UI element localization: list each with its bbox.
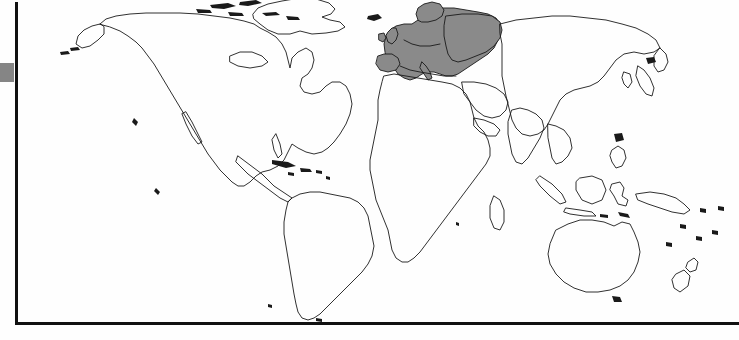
island-pacific-3: [696, 236, 702, 241]
island-philippines-north: [614, 133, 624, 142]
landmass-new-zealand-south: [672, 270, 690, 292]
landmass-florida: [272, 134, 282, 158]
island-aleutian-1: [70, 47, 80, 51]
landmass-java: [564, 208, 596, 216]
landmass-greenland: [253, 0, 345, 34]
landmass-arabian-peninsula: [462, 82, 508, 118]
island-tasmania: [612, 296, 622, 302]
island-lesser-antilles: [326, 176, 330, 180]
island-jamaica: [288, 172, 294, 176]
island-arctic-5: [286, 16, 300, 20]
island-aleutian-2: [60, 51, 70, 55]
speck-artifact-3: [456, 222, 459, 226]
island-hokkaido: [646, 57, 656, 64]
landmass-new-zealand-north: [686, 258, 698, 272]
island-iceland: [367, 14, 382, 21]
island-arctic-4: [262, 12, 280, 16]
island-arctic-1: [210, 3, 236, 9]
island-pacific-2: [712, 230, 718, 235]
landmass-horn-of-africa: [474, 118, 500, 136]
speck-artifact-2: [154, 188, 160, 195]
island-arctic-2: [239, 0, 262, 6]
landmass-korea: [622, 72, 632, 88]
landmass-iberia-highlighted: [376, 54, 400, 72]
frame-left-rule: [15, 2, 18, 325]
landmass-sumatra: [536, 176, 566, 204]
landmass-north-america: [100, 13, 352, 186]
island-pacific-4: [680, 224, 686, 229]
speck-artifact-4: [268, 304, 272, 308]
island-pacific-1: [700, 208, 706, 213]
world-map-graphic: [0, 0, 739, 340]
island-timor: [618, 212, 630, 218]
island-puerto-rico: [316, 170, 322, 174]
landmass-south-america: [284, 192, 374, 320]
frame-bottom-rule: [15, 322, 739, 325]
island-pacific-5: [666, 242, 672, 247]
speck-artifact-1: [132, 118, 138, 126]
landmass-india: [508, 108, 544, 164]
landmass-africa: [370, 74, 490, 262]
landmass-sulawesi: [610, 182, 628, 206]
landmass-japan: [636, 66, 654, 96]
landmass-indochina: [548, 124, 572, 164]
feature-great-lakes: [230, 52, 268, 68]
island-lesser-sunda-1: [600, 214, 608, 218]
landmass-new-guinea: [636, 192, 690, 214]
world-map-figure: [0, 0, 739, 340]
island-pacific-6: [718, 206, 724, 211]
landmass-alaska: [76, 24, 104, 48]
landmass-philippines: [610, 146, 626, 168]
island-hispaniola: [300, 168, 312, 172]
landmass-western-russia-highlighted: [444, 14, 502, 62]
landmass-australia: [548, 220, 640, 292]
landmass-kamchatka: [654, 48, 668, 72]
island-arctic-3: [196, 9, 212, 13]
left-edge-marker-block: [0, 63, 14, 82]
island-arctic-6: [228, 12, 244, 16]
landmass-borneo: [576, 176, 606, 204]
landmass-madagascar: [490, 196, 504, 230]
